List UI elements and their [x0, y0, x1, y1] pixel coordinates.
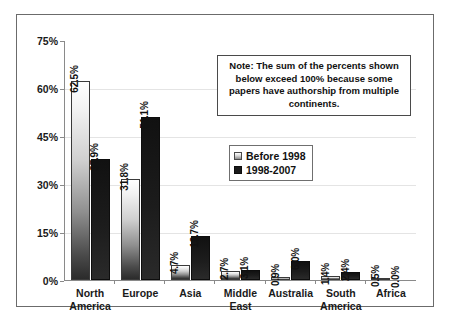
bar-label-before-1998-north-america: 62.5% — [69, 65, 80, 92]
bar-label-before-1998-australia: 0.9% — [270, 264, 281, 286]
bar-group-north-america: 62.5% 37.9% — [65, 41, 115, 280]
bar-label-before-1998-europe: 31.8% — [119, 163, 130, 190]
cat-label-line1: North — [65, 287, 115, 300]
cat-label-asia: Asia — [165, 287, 215, 313]
cat-label-australia: Australia — [266, 287, 316, 313]
cat-label-line1: South — [316, 287, 366, 300]
x-axis-line — [64, 280, 416, 281]
legend-item-1998-2007[interactable]: 1998-2007 — [234, 163, 306, 177]
legend-item-before-1998[interactable]: Before 1998 — [234, 149, 306, 163]
bar-label-before-1998-south-america: 1.4% — [320, 263, 331, 285]
bar-label-before-1998-africa: 0.5% — [370, 265, 381, 287]
bar-label-1998-2007-asia: 13.7% — [189, 221, 200, 248]
bar-1998-2007-south-america[interactable]: 2.4% — [341, 272, 360, 280]
bar-label-before-1998-asia: 4.7% — [169, 252, 180, 274]
cat-label-line1: Europe — [115, 287, 165, 300]
bar-before-1998-australia[interactable]: 0.9% — [271, 277, 290, 280]
bar-before-1998-asia[interactable]: 4.7% — [171, 265, 190, 280]
bar-label-1998-2007-middle-east: 3.1% — [239, 257, 250, 279]
y-tick-label-2: 30% — [37, 179, 58, 191]
bar-label-1998-2007-europe: 51.1% — [139, 101, 150, 128]
legend-swatch-1998-2007-icon — [234, 166, 242, 174]
y-tick-label-5: 75% — [37, 35, 58, 47]
note-line-2: below exceed 100% because some — [223, 73, 405, 86]
note-line-1: Note: The sum of the percents shown — [223, 60, 405, 73]
bar-label-1998-2007-australia: 6.0% — [290, 248, 301, 270]
bar-1998-2007-middle-east[interactable]: 3.1% — [241, 270, 260, 280]
cat-label-line1: Middle — [215, 287, 265, 300]
note-line-4: continents. — [223, 98, 405, 111]
bar-1998-2007-australia[interactable]: 6.0% — [291, 261, 310, 280]
bar-before-1998-south-america[interactable]: 1.4% — [321, 276, 340, 281]
cat-label-south-america: South America — [316, 287, 366, 313]
cat-label-line1: Africa — [366, 287, 416, 300]
bar-1998-2007-north-america[interactable]: 37.9% — [91, 159, 110, 280]
legend-swatch-before-1998-icon — [234, 152, 242, 160]
chart-legend: Before 1998 1998-2007 — [229, 145, 313, 181]
bar-group-europe: 31.8% 51.1% — [115, 41, 165, 280]
cat-label-line2: America — [65, 300, 115, 313]
bar-before-1998-middle-east[interactable]: 2.7% — [221, 271, 240, 280]
bar-1998-2007-europe[interactable]: 51.1% — [141, 117, 160, 280]
y-tick-label-3: 45% — [37, 131, 58, 143]
bar-label-before-1998-middle-east: 2.7% — [219, 258, 230, 280]
cat-label-north-america: North America — [65, 287, 115, 313]
cat-label-line2: America — [316, 300, 366, 313]
cat-label-europe: Europe — [115, 287, 165, 313]
cat-label-middle-east: Middle East — [215, 287, 265, 313]
cat-label-line2: East — [215, 300, 265, 313]
legend-label-before-1998: Before 1998 — [246, 149, 306, 163]
bar-before-1998-north-america[interactable]: 62.5% — [71, 81, 90, 280]
cat-label-africa: Africa — [366, 287, 416, 313]
note-line-3: papers have authorship from multiple — [223, 85, 405, 98]
bar-label-1998-2007-north-america: 37.9% — [89, 143, 100, 170]
y-tick-label-0: 0% — [43, 275, 58, 287]
chart-frame: 0% 15% 30% 45% 60% 75% — [16, 14, 434, 307]
y-tick-label-4: 60% — [37, 83, 58, 95]
bar-1998-2007-asia[interactable]: 13.7% — [191, 236, 210, 280]
cat-label-line1: Australia — [266, 287, 316, 300]
legend-label-1998-2007: 1998-2007 — [246, 163, 296, 177]
x-axis-category-labels: North America Europe Asia Middle East Au… — [65, 287, 416, 313]
bar-before-1998-africa[interactable]: 0.5% — [371, 278, 390, 280]
bar-group-asia: 4.7% 13.7% — [165, 41, 215, 280]
bar-label-1998-2007-africa: 0.0% — [390, 266, 401, 288]
bar-before-1998-europe[interactable]: 31.8% — [121, 179, 140, 280]
cat-label-line1: Asia — [165, 287, 215, 300]
y-tick-label-1: 15% — [37, 227, 58, 239]
bar-label-1998-2007-south-america: 2.4% — [340, 259, 351, 281]
note-annotation-box: Note: The sum of the percents shown belo… — [217, 55, 411, 116]
